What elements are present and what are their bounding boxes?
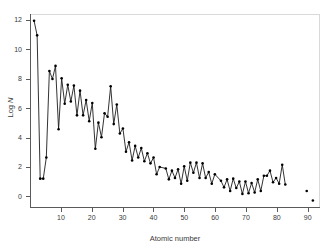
y-tick-mark — [26, 49, 30, 50]
data-point — [131, 159, 134, 162]
data-point — [269, 169, 272, 172]
data-point — [137, 156, 140, 159]
data-point — [226, 178, 229, 181]
data-point — [165, 167, 168, 170]
data-point — [45, 156, 48, 159]
data-point-isolated — [312, 199, 315, 202]
data-point — [278, 182, 281, 185]
data-point — [263, 174, 266, 177]
data-point — [232, 177, 235, 180]
data-point — [48, 70, 51, 73]
y-tick-mark — [26, 20, 30, 21]
data-point — [266, 174, 269, 177]
x-tick-label: 90 — [296, 214, 320, 221]
data-point — [140, 147, 143, 150]
data-point-isolated — [305, 190, 308, 193]
y-tick-mark — [26, 196, 30, 197]
x-tick-mark — [153, 208, 154, 212]
data-point — [42, 177, 45, 180]
x-tick-label: 10 — [49, 214, 73, 221]
data-point — [247, 192, 250, 195]
y-tick-label: 12 — [0, 16, 22, 23]
data-point — [244, 180, 247, 183]
data-point — [51, 78, 54, 81]
data-point — [250, 182, 253, 185]
data-point — [198, 177, 201, 180]
data-point — [207, 171, 210, 174]
x-tick-mark — [215, 208, 216, 212]
data-point — [192, 172, 195, 175]
data-point — [201, 162, 204, 165]
data-point — [210, 182, 213, 185]
data-point — [60, 77, 63, 80]
x-tick-label: 20 — [80, 214, 104, 221]
y-tick-label: 0 — [0, 193, 22, 200]
y-tick-label: 10 — [0, 46, 22, 53]
abundance-chart-figure: 024681012 102030405060708090 Log N Atomi… — [0, 0, 332, 252]
data-point — [272, 181, 275, 184]
x-tick-mark — [184, 208, 185, 212]
x-tick-mark — [92, 208, 93, 212]
data-point — [149, 162, 152, 165]
data-point — [125, 150, 128, 153]
data-point — [109, 85, 112, 88]
data-point — [88, 120, 91, 123]
y-axis-title-prefix: Log — [6, 103, 15, 118]
data-point — [128, 141, 131, 144]
x-tick-label: 30 — [111, 214, 135, 221]
data-point — [57, 128, 60, 131]
data-point — [223, 186, 226, 189]
data-point — [122, 127, 125, 130]
data-point — [235, 187, 238, 190]
data-point — [76, 114, 79, 117]
data-point — [275, 177, 278, 180]
data-point — [100, 136, 103, 139]
data-point — [70, 100, 73, 103]
y-axis-title: Log N — [6, 85, 15, 131]
data-point — [112, 123, 115, 126]
data-point — [94, 148, 97, 151]
data-point — [36, 34, 39, 37]
y-axis-title-symbol: N — [6, 97, 15, 102]
y-tick-label: 4 — [0, 134, 22, 141]
data-point — [204, 177, 207, 180]
plot-frame — [30, 14, 320, 208]
data-point — [115, 103, 118, 106]
x-tick-mark — [246, 208, 247, 212]
data-point — [134, 145, 137, 148]
x-tick-label: 40 — [141, 214, 165, 221]
data-point — [146, 152, 149, 155]
data-point — [174, 177, 177, 180]
y-axis-line — [30, 14, 31, 208]
data-point — [106, 116, 109, 119]
data-point — [152, 156, 155, 159]
data-point — [79, 89, 82, 92]
abundance-markers — [33, 20, 287, 196]
data-point — [259, 190, 262, 193]
x-tick-mark — [308, 208, 309, 212]
data-point — [195, 161, 198, 164]
data-point — [229, 190, 232, 193]
data-point — [238, 180, 241, 183]
plot-canvas — [31, 15, 319, 207]
x-tick-label: 80 — [265, 214, 289, 221]
actinide-markers — [305, 190, 314, 202]
data-point — [66, 84, 69, 87]
data-point — [189, 161, 192, 164]
y-tick-mark — [26, 79, 30, 80]
data-point — [214, 173, 217, 176]
data-point — [180, 182, 183, 185]
x-tick-mark — [61, 208, 62, 212]
data-point — [186, 180, 189, 183]
data-point — [281, 164, 284, 167]
data-point — [39, 177, 42, 180]
data-point — [177, 168, 180, 171]
y-tick-mark — [26, 167, 30, 168]
data-point — [241, 193, 244, 196]
data-point — [155, 173, 158, 176]
data-point — [171, 169, 174, 172]
data-point — [91, 102, 94, 105]
x-tick-label: 70 — [234, 214, 258, 221]
y-tick-label: 2 — [0, 163, 22, 170]
data-point — [73, 84, 76, 87]
